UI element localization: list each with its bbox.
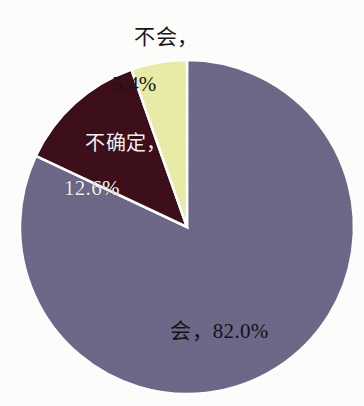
pie-label-unsure-category: 不确定， [85, 132, 166, 154]
pie-label-yes-text: 会，82.0% [170, 319, 268, 343]
pie-label-no-category: 不会， [134, 25, 198, 49]
pie-label-unsure-percent: 12.6% [64, 177, 166, 201]
pie-label-no-percent: 5.4% [112, 73, 198, 97]
pie-label-unsure: 不确定， 12.6% [64, 110, 166, 245]
pie-label-yes: 会，82.0% [148, 296, 269, 367]
pie-chart: 不会， 5.4% 不确定， 12.6% 会，82.0% [0, 0, 364, 406]
